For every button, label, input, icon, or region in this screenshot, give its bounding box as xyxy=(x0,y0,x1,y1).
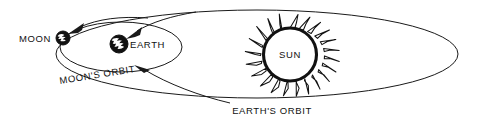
sun-ray xyxy=(249,39,263,48)
sun-ray xyxy=(271,79,280,93)
sun-ray xyxy=(308,22,321,33)
sun-ray xyxy=(279,14,282,30)
earth-body xyxy=(110,35,128,53)
sun-ray xyxy=(312,75,320,89)
sun-label: SUN xyxy=(279,49,301,60)
sun-ray xyxy=(290,15,298,29)
sun-ray xyxy=(322,63,336,72)
sun-body: SUN xyxy=(245,14,339,96)
sun-ray xyxy=(246,61,262,65)
moons-orbit-pointer-line xyxy=(145,70,230,103)
sun-ray xyxy=(252,68,267,76)
diagram-canvas: MOON EARTH xyxy=(0,0,480,126)
earth-label: EARTH xyxy=(130,39,165,50)
sun-ray xyxy=(257,27,268,41)
earths-orbit-label: EARTH'S ORBIT xyxy=(232,105,312,116)
sun-ray xyxy=(324,49,340,52)
moon-label: MOON xyxy=(19,33,51,44)
moons-orbit-label: MOON'S ORBIT xyxy=(59,63,136,86)
earth-pointer-arrowhead xyxy=(126,27,142,39)
sun-ray xyxy=(299,17,310,30)
sun-ray xyxy=(296,81,299,97)
sun-ray xyxy=(260,74,272,86)
sun-ray xyxy=(320,40,336,45)
sun-ray xyxy=(283,81,288,96)
sun-ray xyxy=(305,79,309,94)
moon-body xyxy=(56,31,70,45)
solar-system-diagram: MOON EARTH xyxy=(0,0,480,126)
sun-ray xyxy=(318,70,329,82)
sun-ray xyxy=(324,56,339,62)
sun-ray xyxy=(315,30,330,38)
sun-ray xyxy=(245,51,261,55)
